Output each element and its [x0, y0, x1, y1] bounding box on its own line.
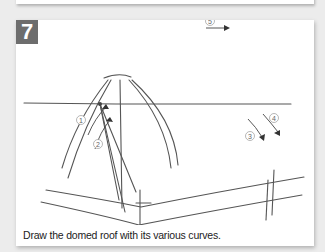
annotation-2: 2	[96, 141, 100, 148]
dome-sketch: 1 2 3 4 5	[16, 20, 314, 225]
annotation-5: 5	[208, 20, 212, 25]
previous-step-panel	[16, 0, 314, 4]
annotation-1: 1	[79, 117, 83, 124]
step-caption: Draw the domed roof with its various cur…	[23, 229, 221, 241]
step-panel: 7	[16, 20, 314, 246]
annotation-4: 4	[272, 115, 276, 122]
annotation-3: 3	[248, 133, 252, 140]
